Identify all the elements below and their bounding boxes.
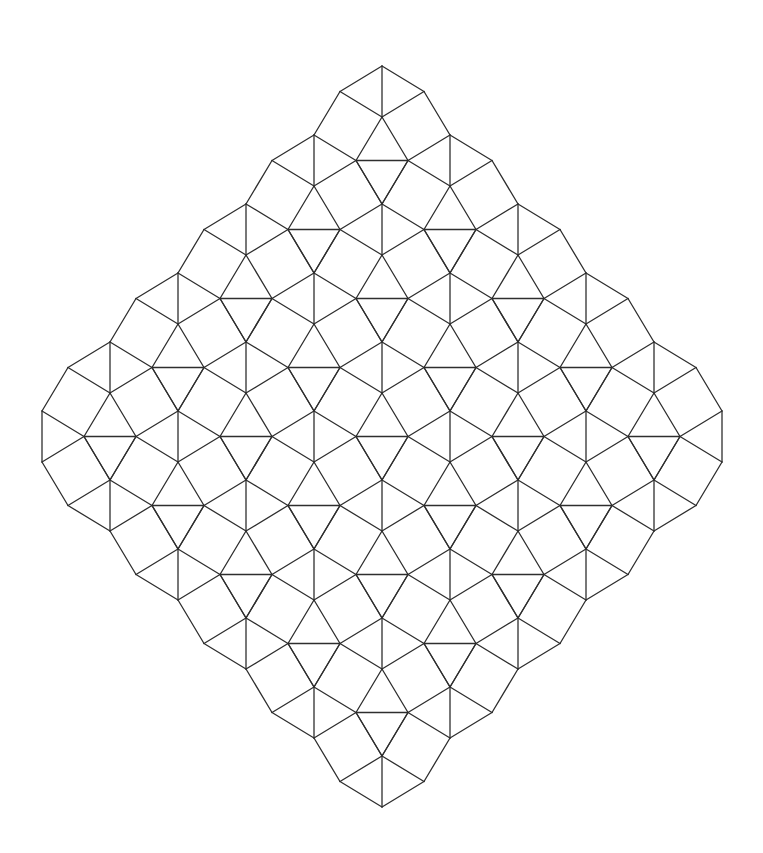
- tiling-edge: [492, 575, 518, 619]
- tiling-edge: [356, 531, 382, 575]
- tiling-edge: [408, 411, 450, 437]
- tiling-edge: [204, 368, 246, 394]
- tiling-edge: [382, 644, 424, 670]
- tiling-edge: [450, 230, 476, 274]
- tiling-edge: [110, 342, 152, 368]
- tiling-edge: [68, 506, 110, 532]
- tiling-edge: [408, 575, 450, 601]
- tiling-edge: [382, 575, 408, 619]
- tiling-edge: [314, 738, 340, 782]
- tiling-edge: [178, 506, 204, 550]
- tiling-edge: [560, 462, 586, 506]
- tiling-edge: [382, 66, 424, 92]
- tiling-edge: [382, 161, 408, 205]
- tiling-edge: [340, 368, 382, 394]
- tiling-edge: [382, 204, 424, 230]
- tiling-edge: [204, 618, 246, 644]
- tiling-edge: [382, 669, 408, 713]
- tiling-edge: [654, 393, 680, 437]
- tiling-edge: [204, 342, 246, 368]
- tiling-edge: [476, 506, 518, 532]
- tiling-edge: [42, 368, 68, 412]
- tiling-edge: [450, 713, 492, 739]
- tiling-edge: [220, 575, 246, 619]
- tiling-edge: [518, 644, 560, 670]
- tiling-edge: [178, 299, 220, 325]
- tiling-edge: [314, 161, 356, 187]
- tiling-edge: [408, 549, 450, 575]
- tiling-edge: [272, 549, 314, 575]
- tiling-edge: [340, 506, 382, 532]
- tiling-edge: [288, 324, 314, 368]
- tiling-edge: [586, 506, 612, 550]
- tiling-edge: [586, 324, 612, 368]
- tiling-edge: [314, 230, 340, 274]
- tiling-edge: [246, 342, 288, 368]
- tiling-edge: [654, 506, 696, 532]
- tiling-edge: [492, 255, 518, 299]
- tiling-edge: [204, 480, 246, 506]
- tiling-edge: [314, 324, 340, 368]
- tiling-edge: [408, 687, 450, 713]
- tiling-edge: [356, 161, 382, 205]
- tiling-edge: [178, 368, 204, 412]
- tiling-edge: [110, 480, 152, 506]
- tiling-edge: [450, 600, 476, 644]
- tiling-edge: [408, 135, 450, 161]
- tiling-edge: [382, 531, 408, 575]
- tiling-edge: [340, 342, 382, 368]
- tiling-edge: [382, 782, 424, 808]
- tiling-edge: [424, 230, 450, 274]
- tiling-edge: [680, 437, 722, 463]
- tiling-edge: [544, 273, 586, 299]
- tiling-edge: [518, 480, 560, 506]
- tiling-edge: [356, 117, 382, 161]
- tiling-edge: [518, 368, 560, 394]
- tiling-edge: [288, 644, 314, 688]
- tiling-edge: [518, 506, 560, 532]
- tiling-edge: [314, 273, 356, 299]
- tiling-edge: [246, 204, 288, 230]
- tiling-edge: [424, 368, 450, 412]
- tiling-edge: [492, 531, 518, 575]
- tiling-edge: [110, 437, 136, 481]
- tiling-edge: [110, 393, 136, 437]
- tiling-edge: [340, 756, 382, 782]
- tiling-edge: [152, 506, 178, 550]
- tiling-edge: [450, 462, 476, 506]
- tiling-edge: [450, 687, 492, 713]
- tiling-edge: [288, 506, 314, 550]
- tiling-edge: [272, 161, 314, 187]
- tiling-edge: [450, 186, 476, 230]
- tiling-edge: [220, 437, 246, 481]
- tiling-edge: [696, 462, 722, 506]
- tiling-edge: [680, 411, 722, 437]
- tiling-edge: [220, 531, 246, 575]
- tiling-edge: [654, 368, 696, 394]
- tiling-edge: [424, 92, 450, 136]
- tiling-edge: [136, 437, 178, 463]
- tiling-edge: [42, 437, 84, 463]
- tiling-edge: [492, 437, 518, 481]
- tiling-edge: [314, 92, 340, 136]
- tiling-edge: [314, 549, 356, 575]
- tiling-edge: [152, 324, 178, 368]
- tiling-edge: [246, 506, 288, 532]
- tiling-edge: [340, 230, 382, 256]
- tiling-edge: [340, 66, 382, 92]
- tiling-edge: [246, 575, 272, 619]
- tiling-edge: [246, 669, 272, 713]
- tiling-edge: [178, 600, 204, 644]
- tiling-edge: [246, 393, 272, 437]
- tiling-edge: [424, 506, 450, 550]
- tiling-edge: [340, 644, 382, 670]
- tiling-edge: [586, 575, 628, 601]
- tiling-edge: [382, 437, 408, 481]
- tiling-edge: [424, 600, 450, 644]
- tiling-edge: [382, 713, 408, 757]
- tiling-edge: [450, 575, 492, 601]
- tiling-edge: [492, 669, 518, 713]
- tiling-edge: [220, 299, 246, 343]
- tiling-edge: [382, 255, 408, 299]
- tiling-edges: [42, 66, 722, 807]
